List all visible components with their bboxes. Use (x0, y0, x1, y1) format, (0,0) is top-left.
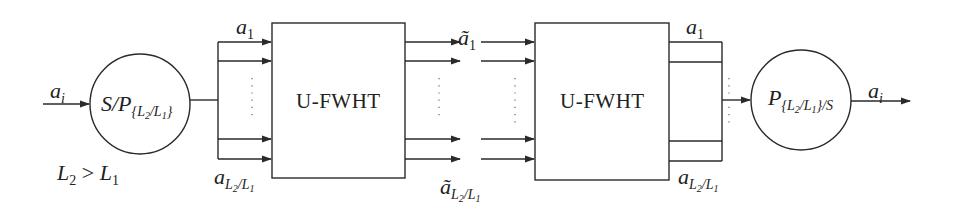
stage1-bottom-label: aL2/L1 (214, 166, 254, 188)
stage2-bottom-label: ãL2/L1 (440, 176, 480, 198)
output-label: ai (868, 80, 883, 102)
block2-label: U-FWHT (560, 91, 645, 112)
stage3-top-label: a1 (686, 16, 704, 38)
ufwht-block-diagram: ai L2 > L1 S/P{L2/L1} a1 aL2/L1 U-FWHT ã… (0, 0, 953, 211)
stage1-top-label: a1 (236, 16, 254, 38)
stage2-top-label: ã1 (458, 27, 476, 49)
sp-block-label: S/P{L2/L1} (101, 93, 172, 115)
input-label: ai (50, 80, 65, 102)
block1-label: U-FWHT (296, 91, 381, 112)
stage3-bottom-label: aL2/L1 (678, 166, 718, 188)
condition-label: L2 > L1 (57, 162, 119, 184)
ps-block-label: P{L2/L1}/S (768, 87, 833, 109)
